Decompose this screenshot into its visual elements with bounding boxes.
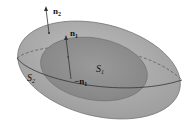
- label-n2: n2: [53, 6, 61, 17]
- nested-ellipsoids-diagram: n2 n1 −n1 S1 S2: [0, 0, 193, 122]
